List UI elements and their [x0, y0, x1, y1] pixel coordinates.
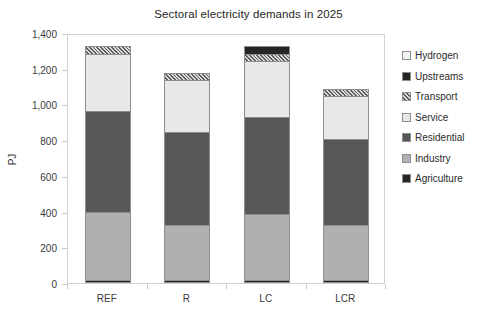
legend-swatch-agriculture: [402, 174, 411, 183]
chart-title: Sectoral electricity demands in 2025: [0, 8, 497, 20]
x-axis-tick-mark: [226, 284, 227, 289]
legend-item-residential[interactable]: Residential: [402, 132, 494, 143]
chart-legend: HydrogenUpstreamsTransportServiceResiden…: [402, 50, 494, 194]
legend-item-service[interactable]: Service: [402, 112, 494, 123]
y-axis-tick-label: 800: [40, 136, 57, 147]
bar-segment-lc-residential[interactable]: [244, 117, 290, 214]
x-axis-label-ref: REF: [97, 293, 117, 304]
bar-segment-lc-industry[interactable]: [244, 214, 290, 280]
legend-item-upstreams[interactable]: Upstreams: [402, 71, 494, 82]
legend-swatch-upstreams: [402, 72, 411, 81]
bar-segment-r-agriculture[interactable]: [164, 280, 210, 283]
bar-column-lc[interactable]: [244, 33, 290, 283]
x-axis-tick-mark: [306, 284, 307, 289]
legend-swatch-hydrogen: [402, 51, 411, 60]
y-axis-tick-label: 1,400: [32, 29, 57, 40]
legend-item-industry[interactable]: Industry: [402, 153, 494, 164]
x-axis-label-r: R: [183, 293, 190, 304]
bar-segment-lc-transport[interactable]: [244, 54, 290, 61]
legend-item-hydrogen[interactable]: Hydrogen: [402, 50, 494, 61]
plot-area: [67, 34, 385, 284]
bar-segment-r-industry[interactable]: [164, 225, 210, 280]
bar-column-ref[interactable]: [85, 33, 131, 283]
legend-label-residential: Residential: [415, 132, 464, 143]
bar-segment-lcr-service[interactable]: [323, 96, 369, 139]
bar-segment-lcr-residential[interactable]: [323, 139, 369, 225]
bar-segment-ref-transport[interactable]: [85, 46, 131, 53]
bar-segment-r-transport[interactable]: [164, 73, 210, 80]
x-axis-tick-mark: [67, 284, 68, 289]
x-axis-tick-mark: [147, 284, 148, 289]
bar-segment-lcr-agriculture[interactable]: [323, 280, 369, 283]
bar-segment-ref-service[interactable]: [85, 54, 131, 111]
y-axis-tick-label: 1,200: [32, 64, 57, 75]
x-axis: REFRLCLCR: [67, 284, 385, 310]
chart-container: Sectoral electricity demands in 2025 PJ …: [0, 0, 497, 325]
legend-swatch-service: [402, 113, 411, 122]
legend-label-agriculture: Agriculture: [415, 173, 463, 184]
legend-label-upstreams: Upstreams: [415, 71, 463, 82]
y-axis-tick-label: 600: [40, 171, 57, 182]
bar-segment-lcr-industry[interactable]: [323, 225, 369, 280]
legend-label-hydrogen: Hydrogen: [415, 50, 458, 61]
legend-swatch-residential: [402, 133, 411, 142]
y-axis-tick-label: 0: [51, 279, 57, 290]
bar-column-lcr[interactable]: [323, 33, 369, 283]
y-axis: 02004006008001,0001,2001,400: [0, 34, 67, 284]
y-axis-tick-label: 1,000: [32, 100, 57, 111]
legend-item-transport[interactable]: Transport: [402, 91, 494, 102]
y-axis-tick-label: 400: [40, 207, 57, 218]
bar-segment-ref-agriculture[interactable]: [85, 280, 131, 283]
bar-segment-lc-agriculture[interactable]: [244, 280, 290, 283]
bar-segment-lc-service[interactable]: [244, 61, 290, 117]
bar-segment-lcr-transport[interactable]: [323, 89, 369, 96]
bar-segment-r-service[interactable]: [164, 80, 210, 132]
bar-segment-ref-industry[interactable]: [85, 212, 131, 281]
legend-swatch-transport: [402, 92, 411, 101]
plot-inner: [68, 35, 384, 283]
legend-item-agriculture[interactable]: Agriculture: [402, 173, 494, 184]
legend-swatch-industry: [402, 154, 411, 163]
legend-label-transport: Transport: [415, 91, 457, 102]
bar-segment-ref-residential[interactable]: [85, 111, 131, 212]
x-axis-tick-mark: [385, 284, 386, 289]
x-axis-label-lcr: LCR: [335, 293, 355, 304]
y-axis-tick-label: 200: [40, 243, 57, 254]
legend-label-service: Service: [415, 112, 448, 123]
bar-segment-lc-upstreams[interactable]: [244, 46, 290, 53]
bar-segment-r-residential[interactable]: [164, 132, 210, 225]
x-axis-label-lc: LC: [259, 293, 272, 304]
bar-column-r[interactable]: [164, 33, 210, 283]
legend-label-industry: Industry: [415, 153, 451, 164]
